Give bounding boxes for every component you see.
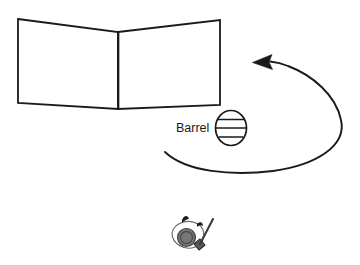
golf-club-and-ball-icon xyxy=(172,216,213,250)
left-panel xyxy=(18,19,118,109)
diagram-svg: Barrel xyxy=(0,0,360,265)
diagram-canvas: Barrel xyxy=(0,0,360,265)
barrel-label: Barrel xyxy=(176,121,209,135)
right-panel xyxy=(118,20,220,109)
golf-club-shaft xyxy=(200,219,213,244)
